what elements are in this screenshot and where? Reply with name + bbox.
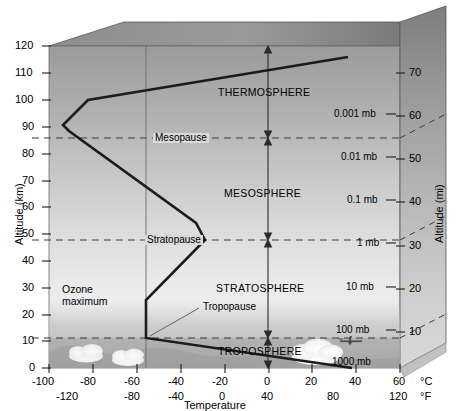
annotation-ozone-maximum: Ozone maximum [62,283,108,307]
altitude-mi-tick: 30 [409,240,421,251]
temperature-axis-title: Temperature [184,400,246,411]
pressure-label: 0.001 mb [334,109,376,119]
altitude-km-tick: 70 [22,175,34,186]
celsius-unit-label: °C [420,376,432,387]
altitude-km-tick: 30 [22,282,34,293]
cloud-icon [112,349,144,367]
altitude-mi-tick: 10 [409,326,421,337]
temperature-fahrenheit-tick: 40 [261,391,273,402]
cloud-icon [69,344,103,363]
layer-label-mesosphere: MESOSPHERE [224,188,301,199]
boundary-label-tropopause: Tropopause [201,302,258,312]
atmosphere-profile-figure: Altitude (km) 120 110 100 90 80 70 60 50… [0,0,471,411]
temperature-fahrenheit-tick: -120 [56,391,78,402]
temperature-fahrenheit-tick: 80 [327,391,339,402]
temperature-celsius-tick: 60 [393,376,405,387]
temperature-fahrenheit-tick: -80 [124,391,140,402]
temperature-fahrenheit-tick: 120 [389,391,407,402]
altitude-km-tick: 50 [22,228,34,239]
pressure-label: 100 mb [336,325,369,335]
layer-label-thermosphere: THERMOSPHERE [218,87,310,98]
altitude-km-tick: 120 [15,40,33,51]
altitude-km-tick: 60 [22,201,34,212]
boundary-label-stratopause: Stratopause [145,235,203,245]
altitude-mi-tick: 50 [409,153,421,164]
temperature-celsius-tick: 40 [349,376,361,387]
pressure-label: 10 mb [346,282,374,292]
altitude-mi-tick: 60 [409,110,421,121]
temperature-celsius-tick: 20 [305,376,317,387]
pressure-label: 0.1 mb [347,195,378,205]
pressure-label: 1000 mb [332,357,371,367]
altitude-mi-axis-title: Altitude (mi) [434,184,445,243]
altitude-km-tick: 20 [22,309,34,320]
altitude-mi-tick: 20 [409,283,421,294]
altitude-km-tick: 100 [15,94,33,105]
annotation-line-1: Ozone [62,283,108,295]
temperature-celsius-tick: 0 [264,376,270,387]
temperature-fahrenheit-tick: -40 [168,391,184,402]
layer-label-stratosphere: STRATOSPHERE [216,283,304,294]
altitude-km-tick: 40 [22,255,34,266]
altitude-km-tick: 110 [15,67,33,78]
altitude-km-tick: 0 [29,362,35,373]
temperature-celsius-tick: -60 [124,376,140,387]
temperature-celsius-tick: -20 [212,376,228,387]
altitude-mi-tick: 40 [409,196,421,207]
layer-label-troposphere: TROPOSPHERE [218,346,302,357]
temperature-celsius-tick: -40 [168,376,184,387]
temperature-celsius-tick: -100 [32,376,54,387]
fahrenheit-unit-label: °F [420,391,431,402]
pressure-label: 1 mb [357,238,379,248]
altitude-mi-tick: 70 [409,67,421,78]
altitude-km-tick: 80 [22,148,34,159]
boundary-label-mesopause: Mesopause [153,133,209,143]
altitude-km-tick: 10 [22,335,34,346]
altitude-km-tick: 90 [22,121,34,132]
pressure-label: 0.01 mb [341,152,377,162]
box-top-face [49,22,400,46]
temperature-celsius-tick: -80 [80,376,96,387]
annotation-line-2: maximum [62,295,108,307]
